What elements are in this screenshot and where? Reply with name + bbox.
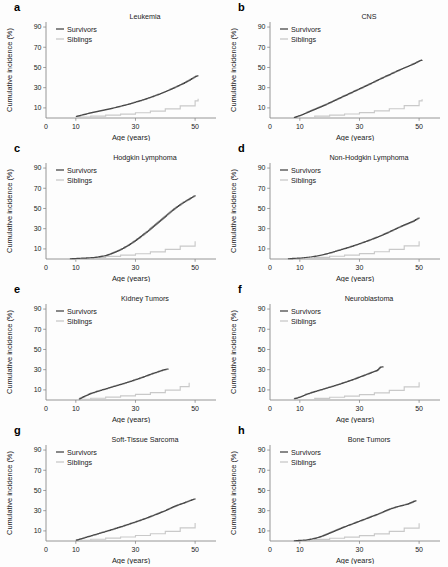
x-tick-label: 50: [415, 546, 423, 553]
x-tick-label: 10: [296, 264, 304, 271]
y-tick-label: 70: [258, 326, 266, 333]
y-tick-label: 70: [258, 44, 266, 51]
y-tick-label: 50: [34, 64, 42, 71]
panel-b: bCNS10305070900103050Age (years)Cumulati…: [224, 0, 448, 141]
y-tick-label: 30: [258, 225, 266, 232]
y-tick-label: 90: [34, 446, 42, 453]
y-axis-title: Cumulative incidence (%): [229, 28, 238, 112]
plot-area-g: 10305070900103050Age (years)Cumulative i…: [0, 423, 224, 564]
y-axis-title: Cumulative incidence (%): [229, 451, 238, 535]
panel-g: gSoft-Tissue Sarcoma10305070900103050Age…: [0, 423, 224, 564]
y-tick-label: 70: [34, 467, 42, 474]
y-tick-label: 50: [258, 64, 266, 71]
x-tick-label: 50: [191, 264, 199, 271]
x-tick-label: 0: [44, 405, 48, 412]
x-tick-label: 30: [132, 546, 140, 553]
x-axis-title: Age (years): [336, 274, 374, 282]
y-tick-label: 10: [34, 104, 42, 111]
x-tick-label: 50: [415, 123, 423, 130]
x-tick-label: 0: [268, 123, 272, 130]
legend-label-survivors: Survivors: [291, 448, 321, 457]
legend-label-survivors: Survivors: [67, 307, 97, 316]
x-tick-label: 50: [191, 546, 199, 553]
legend-label-siblings: Siblings: [291, 317, 317, 326]
y-tick-label: 90: [258, 23, 266, 30]
legend-label-survivors: Survivors: [67, 166, 97, 175]
y-tick-label: 50: [258, 346, 266, 353]
x-axis-title: Age (years): [336, 556, 374, 564]
curve-survivors: [76, 76, 198, 117]
y-tick-label: 90: [34, 23, 42, 30]
x-tick-label: 0: [268, 264, 272, 271]
y-axis-title: Cumulative incidence (%): [5, 451, 14, 535]
y-tick-label: 10: [34, 527, 42, 534]
legend-label-survivors: Survivors: [67, 25, 97, 34]
x-axis-title: Age (years): [112, 415, 150, 423]
y-tick-label: 10: [258, 527, 266, 534]
x-tick-label: 50: [191, 405, 199, 412]
x-tick-label: 50: [191, 123, 199, 130]
x-tick-label: 30: [132, 123, 140, 130]
x-tick-label: 0: [44, 123, 48, 130]
x-tick-label: 30: [356, 123, 364, 130]
legend-label-survivors: Survivors: [67, 448, 97, 457]
x-axis-title: Age (years): [112, 556, 150, 564]
curve-siblings: [70, 241, 195, 258]
plot-area-h: 10305070900103050Age (years)Cumulative i…: [224, 423, 448, 564]
panel-e: eKidney Tumors10305070900103050Age (year…: [0, 282, 224, 423]
y-tick-label: 90: [34, 305, 42, 312]
x-tick-label: 10: [296, 546, 304, 553]
panel-f: fNeuroblastoma10305070900103050Age (year…: [224, 282, 448, 423]
legend-label-siblings: Siblings: [67, 458, 93, 467]
x-tick-label: 30: [132, 264, 140, 271]
y-tick-label: 10: [258, 245, 266, 252]
y-tick-label: 70: [258, 467, 266, 474]
curve-siblings: [76, 523, 195, 540]
x-tick-label: 10: [72, 264, 80, 271]
legend-label-siblings: Siblings: [67, 176, 93, 185]
y-tick-label: 10: [34, 386, 42, 393]
x-tick-label: 10: [296, 405, 304, 412]
curve-siblings: [294, 523, 419, 540]
y-tick-label: 10: [34, 245, 42, 252]
y-tick-label: 90: [34, 164, 42, 171]
plot-area-f: 10305070900103050Age (years)Cumulative i…: [224, 282, 448, 423]
y-tick-label: 30: [258, 507, 266, 514]
legend-label-siblings: Siblings: [291, 458, 317, 467]
y-tick-label: 50: [34, 205, 42, 212]
x-axis-title: Age (years): [336, 133, 374, 141]
x-tick-label: 30: [356, 405, 364, 412]
y-tick-label: 70: [258, 185, 266, 192]
y-tick-label: 10: [258, 386, 266, 393]
x-axis-title: Age (years): [112, 133, 150, 141]
x-tick-label: 30: [356, 546, 364, 553]
curve-survivors: [288, 218, 419, 259]
plot-area-a: 10305070900103050Age (years)Cumulative i…: [0, 0, 224, 141]
panel-c: cHodgkin Lymphoma10305070900103050Age (y…: [0, 141, 224, 282]
legend-label-survivors: Survivors: [291, 166, 321, 175]
x-tick-label: 0: [268, 405, 272, 412]
y-tick-label: 50: [258, 487, 266, 494]
legend-label-siblings: Siblings: [291, 35, 317, 44]
y-axis-title: Cumulative incidence (%): [5, 169, 14, 253]
legend-label-survivors: Survivors: [291, 307, 321, 316]
y-tick-label: 50: [34, 487, 42, 494]
x-tick-label: 0: [44, 264, 48, 271]
y-axis-title: Cumulative incidence (%): [5, 310, 14, 394]
y-tick-label: 30: [34, 507, 42, 514]
legend-label-survivors: Survivors: [291, 25, 321, 34]
x-tick-label: 0: [44, 546, 48, 553]
plot-area-d: 10305070900103050Age (years)Cumulative i…: [224, 141, 448, 282]
plot-area-b: 10305070900103050Age (years)Cumulative i…: [224, 0, 448, 141]
y-tick-label: 90: [258, 446, 266, 453]
x-tick-label: 10: [296, 123, 304, 130]
x-axis-title: Age (years): [336, 415, 374, 423]
legend-label-siblings: Siblings: [291, 176, 317, 185]
curve-siblings: [288, 241, 419, 258]
y-axis-title: Cumulative incidence (%): [229, 169, 238, 253]
plot-area-c: 10305070900103050Age (years)Cumulative i…: [0, 141, 224, 282]
curve-survivors: [76, 499, 195, 541]
x-tick-label: 30: [356, 264, 364, 271]
y-tick-label: 30: [34, 84, 42, 91]
y-axis-title: Cumulative incidence (%): [229, 310, 238, 394]
